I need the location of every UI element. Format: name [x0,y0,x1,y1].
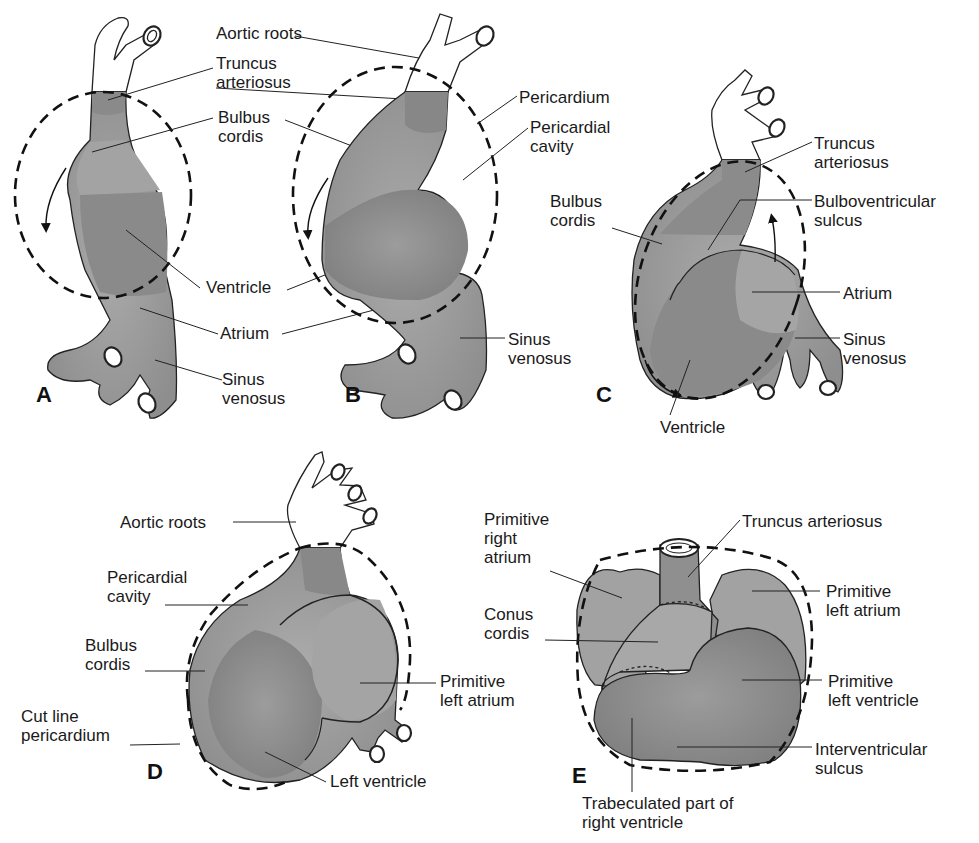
label-truncus-arteriosus-e: Truncus arteriosus [742,512,882,531]
label-primitive-left-ventricle-e: Primitive left ventricle [828,672,919,710]
panel-letter-b: B [345,382,361,408]
label-aortic-roots-a: Aortic roots [216,24,302,43]
label-ventricle-c: Ventricle [660,418,725,437]
panel-letter-a: A [36,382,52,408]
label-truncus-arteriosus-c: Truncus arteriosus [814,134,889,172]
label-pericardial-cavity-b: Pericardial cavity [530,118,610,156]
label-pericardial-cavity-d: Pericardial cavity [107,568,187,606]
label-aortic-roots-d: Aortic roots [120,513,206,532]
label-sinus-venosus-a: Sinus venosus [222,370,285,408]
panel-d-drawing [130,452,436,789]
aortic-roots-c [712,70,778,160]
label-primitive-left-atrium-d: Primitive left atrium [440,672,515,710]
aortic-roots-d [288,452,375,548]
label-bulbus-cordis-d: Bulbus cordis [85,636,137,674]
panel-e-drawing [545,520,822,792]
label-ventricle-a: Ventricle [206,278,271,297]
panel-letter-c: C [596,382,612,408]
label-cut-line-pericardium-d: Cut line pericardium [21,707,110,745]
aortic-roots-b [405,14,490,92]
label-sinus-venosus-b: Sinus venosus [508,330,571,368]
label-bulboventricular-sulcus-c: Bulboventricular sulcus [814,192,936,230]
panel-letter-d: D [147,759,163,785]
panel-b-drawing [293,14,528,418]
label-left-ventricle-d: Left ventricle [330,772,426,791]
label-trabeculated-right-ventricle-e: Trabeculated part of right ventricle [582,794,734,832]
label-sinus-venosus-c: Sinus venosus [843,330,906,368]
label-bulbus-cordis-a: Bulbus cordis [218,108,270,146]
label-atrium-a: Atrium [220,324,269,343]
cardiac-loop-figure: A B C D E Aortic roots Truncus arteriosu… [0,0,979,843]
label-bulbus-cordis-c: Bulbus cordis [550,192,602,230]
label-atrium-c: Atrium [843,284,892,303]
label-conus-cordis-e: Conus cordis [484,605,533,643]
label-primitive-right-atrium-e: Primitive right atrium [484,510,549,567]
panel-c-drawing [606,70,842,421]
label-pericardium-b: Pericardium [519,88,610,107]
label-primitive-left-atrium-e: Primitive left atrium [826,582,901,620]
label-interventricular-sulcus-e: Interventricular sulcus [815,740,927,778]
diagram-drawing [0,0,979,843]
panel-letter-e: E [572,763,587,789]
label-truncus-arteriosus-a: Truncus arteriosus [216,54,291,92]
